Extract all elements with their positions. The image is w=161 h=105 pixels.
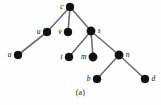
tree-node-a	[14, 51, 22, 59]
tree-figure: cuvsatmnbd (a)	[0, 0, 161, 105]
tree-node-n	[115, 51, 123, 59]
tree-edge-s-n	[91, 31, 119, 55]
tree-node-label-m: m	[81, 53, 86, 61]
tree-node-label-c: c	[60, 3, 63, 11]
tree-node-label-u: u	[37, 28, 41, 36]
tree-node-label-v: v	[58, 28, 61, 36]
tree-node-m	[89, 53, 97, 61]
tree-node-label-b: b	[87, 75, 91, 83]
tree-edge-n-d	[119, 55, 145, 79]
tree-edge-n-b	[97, 55, 119, 79]
tree-node-label-d: d	[152, 75, 156, 83]
tree-edge-u-a	[18, 32, 47, 55]
tree-node-label-n: n	[126, 51, 130, 59]
tree-node-t	[65, 53, 73, 61]
tree-node-v	[64, 28, 72, 36]
tree-node-label-t: t	[60, 53, 62, 61]
tree-node-b	[93, 75, 101, 83]
tree-node-label-s: s	[98, 27, 101, 35]
figure-caption: (a)	[0, 88, 161, 97]
tree-edge-c-s	[70, 7, 91, 31]
edges-group	[18, 7, 145, 79]
tree-node-s	[87, 27, 95, 35]
tree-node-u	[43, 28, 51, 36]
tree-node-c	[66, 3, 74, 11]
tree-node-d	[141, 75, 149, 83]
tree-node-label-a: a	[8, 51, 12, 59]
